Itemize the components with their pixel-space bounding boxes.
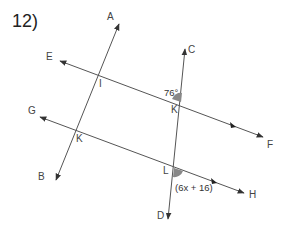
label-a: A: [107, 11, 114, 22]
line-cd: [168, 49, 185, 219]
label-k-upper: K: [171, 104, 178, 115]
angle-label-expression: (6x + 16): [175, 182, 213, 193]
label-g: G: [28, 105, 36, 116]
geometry-diagram: A B C D E F G H I K K L 76° (6x + 16): [0, 0, 281, 248]
label-c: C: [188, 44, 195, 55]
label-f: F: [267, 139, 273, 150]
label-l: L: [163, 165, 169, 176]
line-ab: [56, 24, 119, 180]
parallel-marker-ef: [230, 122, 236, 128]
label-h: H: [249, 189, 256, 200]
label-i: I: [99, 78, 102, 89]
label-e: E: [46, 51, 53, 62]
angle-label-given: 76°: [164, 87, 179, 98]
label-k-lower: K: [76, 133, 83, 144]
label-d: D: [157, 210, 164, 221]
label-b: B: [38, 171, 45, 182]
